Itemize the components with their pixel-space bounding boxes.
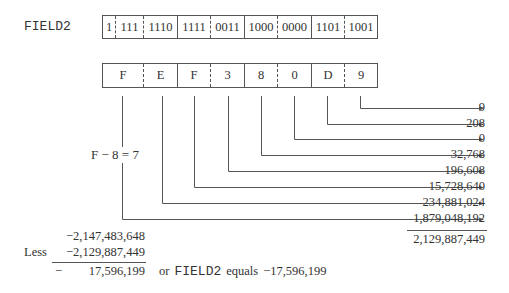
less-label: Less: [24, 245, 47, 260]
conclusion-verb: equals: [226, 264, 258, 279]
place-value: 208: [466, 116, 485, 131]
arrow-line-digit-f2: [195, 96, 481, 188]
place-value: 0: [479, 131, 485, 146]
sum-total: 2,129,887,449: [413, 232, 485, 247]
place-value: 196,608: [444, 163, 485, 178]
conclusion-prefix: or: [159, 264, 169, 279]
minuend: −2,147,483,648: [66, 229, 145, 244]
conclusion: or FIELD2 equals −17,596,199: [159, 264, 326, 279]
arrow-line-digit-0: [295, 96, 481, 140]
place-value: 9: [479, 100, 485, 115]
place-value: 234,881,024: [423, 195, 486, 210]
arrow-line-digit-d: [328, 96, 481, 125]
conclusion-field: FIELD2: [174, 264, 221, 279]
result-sign: −: [55, 264, 62, 279]
arrow-line-digit-3: [229, 96, 481, 172]
place-value: 1,879,048,192: [413, 211, 485, 226]
sign-note: F − 8 = 7: [91, 147, 139, 163]
place-value: 15,728,640: [429, 179, 485, 194]
place-value: 32,768: [451, 147, 485, 162]
result-value: 17,596,199: [89, 264, 145, 279]
arrow-line-digit-9: [361, 96, 481, 109]
conclusion-value: −17,596,199: [263, 264, 326, 279]
subtrahend: −2,129,887,449: [66, 245, 145, 260]
